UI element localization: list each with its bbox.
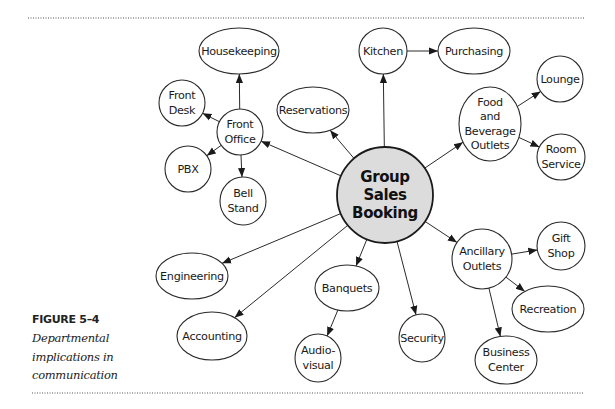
caption-line-1: Departmental (32, 329, 152, 348)
node-label: PBX (177, 163, 199, 176)
arrow-group-sales-booking-to-food-and-beverage-outlets (425, 142, 463, 168)
node-label: Security (400, 332, 444, 345)
node-gift-shop: GiftShop (537, 222, 585, 270)
center-node-group-sales-booking: GroupSalesBooking (337, 147, 433, 243)
node-room-service: RoomService (537, 134, 585, 180)
arrow-group-sales-booking-to-banquets (356, 239, 367, 265)
arrow-banquets-to-audio-visual (327, 310, 338, 336)
node-lounge: Lounge (537, 56, 583, 102)
node-security: Security (399, 314, 445, 362)
node-label: Purchasing (445, 45, 503, 58)
node-label: Accounting (182, 330, 242, 343)
figure-label: FIGURE 5–4 (32, 313, 152, 326)
node-label: BusinessCenter (483, 346, 530, 374)
arrow-ancillary-outlets-to-business-center (489, 288, 500, 336)
node-label: AncillaryOutlets (459, 245, 505, 273)
arrow-food-and-beverage-outlets-to-lounge (517, 91, 540, 106)
node-front-office: FrontOffice (217, 109, 263, 155)
caption-line-3: communication (32, 366, 152, 385)
node-label: Banquets (322, 282, 373, 295)
caption-line-2: implications in (32, 348, 152, 367)
arrow-group-sales-booking-to-reservations (330, 130, 354, 158)
node-engineering: Engineering (156, 253, 228, 299)
node-label: Housekeeping (201, 45, 277, 58)
node-ancillary-outlets: AncillaryOutlets (452, 229, 512, 289)
node-label: Lounge (540, 73, 580, 86)
node-label: Audio-visual (301, 344, 336, 372)
node-food-and-beverage-outlets: FoodandBeverageOutlets (459, 87, 521, 161)
node-recreation: Recreation (512, 286, 584, 332)
node-label: Kitchen (363, 45, 403, 58)
node-front-desk: FrontDesk (159, 80, 205, 126)
arrow-group-sales-booking-to-ancillary-outlets (425, 221, 457, 242)
arrow-front-office-to-bell-stand (241, 155, 242, 177)
node-label: RoomService (541, 143, 581, 171)
node-accounting: Accounting (177, 312, 247, 360)
arrow-group-sales-booking-to-front-office (261, 141, 341, 176)
node-label: FrontOffice (224, 118, 255, 146)
node-reservations: Reservations (277, 87, 349, 133)
node-purchasing: Purchasing (438, 28, 510, 74)
arrow-food-and-beverage-outlets-to-room-service (519, 137, 540, 147)
arrow-group-sales-booking-to-kitchen (383, 74, 384, 147)
node-banquets: Banquets (315, 265, 379, 311)
arrow-front-office-to-pbx (207, 145, 222, 155)
node-label: Recreation (520, 303, 577, 316)
node-label: Reservations (279, 104, 348, 117)
node-label: FrontDesk (169, 89, 197, 117)
arrow-group-sales-booking-to-security (397, 241, 416, 314)
node-kitchen: Kitchen (359, 28, 407, 74)
arrow-ancillary-outlets-to-gift-shop (512, 250, 538, 254)
figure-caption: FIGURE 5–4 Departmental implications in … (32, 313, 152, 385)
node-business-center: BusinessCenter (475, 336, 537, 384)
node-pbx: PBX (165, 146, 211, 192)
node-housekeeping: Housekeeping (199, 28, 279, 74)
arrow-front-office-to-front-desk (203, 113, 220, 121)
node-bell-stand: BellStand (220, 177, 266, 225)
node-label: Engineering (160, 270, 224, 283)
node-audio-visual: Audio-visual (295, 334, 341, 382)
arrow-ancillary-outlets-to-recreation (506, 277, 525, 291)
